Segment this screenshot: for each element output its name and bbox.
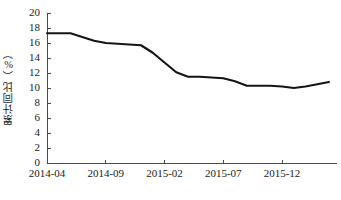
y-tick-label: 16 bbox=[29, 36, 41, 48]
x-tick-label: 2014-04 bbox=[29, 167, 66, 179]
x-tick-label: 2015-02 bbox=[146, 167, 183, 179]
chart-figure: 累计同比（%） 02468101214161820 2014-042014-09… bbox=[0, 0, 341, 200]
y-tick-label: 2 bbox=[35, 141, 41, 153]
y-tick-label: 8 bbox=[35, 96, 41, 108]
y-tick-label: 14 bbox=[29, 51, 41, 63]
y-tick-label: 6 bbox=[35, 111, 41, 123]
x-tick-marks bbox=[47, 160, 282, 164]
y-tick-label: 10 bbox=[29, 81, 41, 93]
plot-area: 02468101214161820 2014-042014-092015-022… bbox=[0, 0, 341, 200]
y-tick-label: 18 bbox=[29, 21, 41, 33]
x-tick-labels: 2014-042014-092015-022015-072015-12 bbox=[29, 167, 301, 179]
x-tick-label: 2015-12 bbox=[264, 167, 301, 179]
y-tick-label: 12 bbox=[29, 66, 40, 78]
y-tick-marks bbox=[47, 13, 51, 163]
data-series-line bbox=[47, 33, 329, 88]
y-tick-label: 4 bbox=[35, 126, 41, 138]
x-tick-label: 2014-09 bbox=[87, 167, 124, 179]
y-tick-labels: 02468101214161820 bbox=[29, 6, 41, 168]
y-tick-label: 20 bbox=[29, 6, 41, 18]
x-tick-label: 2015-07 bbox=[205, 167, 242, 179]
